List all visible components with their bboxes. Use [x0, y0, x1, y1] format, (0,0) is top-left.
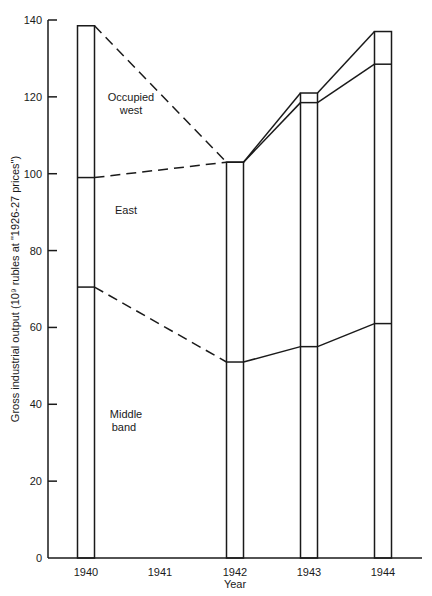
y-tick-label: 40 — [30, 398, 42, 410]
y-tick-label: 60 — [30, 321, 42, 333]
x-tick-label: 1941 — [148, 566, 172, 578]
boundary-line — [244, 103, 301, 163]
year-bar-1943 — [301, 93, 318, 558]
label-occupied-west: Occupied — [108, 91, 154, 103]
year-bar-1944 — [375, 32, 392, 558]
boundary-line — [244, 347, 301, 362]
y-tick-label: 140 — [24, 14, 42, 26]
x-axis: 19401941194219431944 — [48, 558, 422, 578]
boundary-line — [244, 93, 301, 162]
y-tick-label: 100 — [24, 168, 42, 180]
x-tick-label: 1942 — [223, 566, 247, 578]
y-tick-label: 80 — [30, 245, 42, 257]
year-bar-1942 — [227, 162, 244, 558]
y-axis: 020406080100120140 — [24, 14, 57, 564]
boundary-line — [95, 162, 227, 177]
y-axis-title: Gross industrial output (10⁹ rubles at "… — [9, 156, 21, 422]
label-occupied-west: west — [119, 104, 143, 116]
region-labels: OccupiedwestEastMiddleband — [108, 91, 154, 433]
chart: 020406080100120140 19401941194219431944 … — [0, 0, 432, 596]
x-axis-title: Year — [224, 578, 247, 590]
y-tick-label: 0 — [36, 552, 42, 564]
year-bar-1940 — [78, 26, 95, 558]
label-middle-band: band — [112, 421, 136, 433]
x-tick-label: 1943 — [297, 566, 321, 578]
label-east: East — [115, 204, 137, 216]
x-tick-label: 1940 — [74, 566, 98, 578]
boundary-line — [95, 287, 227, 362]
label-middle-band: Middle — [110, 408, 142, 420]
y-tick-label: 120 — [24, 91, 42, 103]
x-tick-label: 1944 — [371, 566, 395, 578]
boundary-line — [318, 324, 375, 347]
y-tick-label: 20 — [30, 475, 42, 487]
